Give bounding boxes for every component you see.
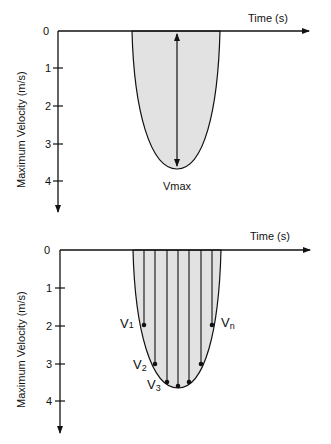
top-velocity-profile [132,31,220,169]
vmax-label: Vmax [163,180,192,192]
v2-label: V2 [133,357,147,373]
top-panel: 0 1 2 3 4 Time (s) Maximum Velocity (m/s… [15,12,309,212]
bottom-tick-1: 1 [46,282,52,294]
bottom-x-axis-label: Time (s) [250,230,290,242]
v3-label: V3 [147,377,161,393]
velocity-diagram: 0 1 2 3 4 Time (s) Maximum Velocity (m/s… [0,0,331,444]
top-tick-2: 2 [45,100,51,112]
bottom-y-axis-label: Maximum Velocity (m/s) [15,291,27,408]
bottom-tick-3: 3 [46,358,52,370]
v1-label: V1 [120,316,134,331]
top-tick-3: 3 [45,138,51,150]
bottom-tick-2: 2 [46,320,52,332]
bottom-panel: 0 1 2 3 4 Time (s) Maximum Velocity (m/s… [15,230,310,433]
top-tick-4: 4 [45,175,51,187]
vn-label: Vn [221,315,235,331]
bottom-tick-0: 0 [44,244,50,256]
top-y-axis-label: Maximum Velocity (m/s) [15,71,27,188]
top-tick-1: 1 [45,62,51,74]
bottom-tick-4: 4 [46,395,52,407]
top-x-axis-label: Time (s) [248,12,288,24]
top-tick-0: 0 [43,25,49,37]
